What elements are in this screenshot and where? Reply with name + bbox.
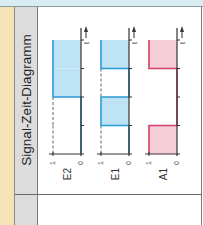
high-segment	[149, 126, 177, 155]
signal-name-label: E1	[110, 167, 121, 180]
signal-name-label: E2	[62, 167, 73, 180]
level-label-high: 1	[49, 161, 56, 165]
time-axis-label: t	[83, 42, 90, 44]
level-label-low: 0	[77, 161, 84, 165]
level-label-low: 0	[173, 161, 180, 165]
signal-name-label: A1	[158, 167, 169, 180]
signal-e1: 10tE1	[97, 26, 138, 180]
signal-time-diagram: 10tE210tE110tA1	[0, 0, 203, 225]
high-segment	[149, 40, 177, 69]
level-label-high: 1	[145, 161, 152, 165]
signal-e2: 10tE2	[49, 26, 90, 180]
high-segment	[53, 40, 81, 69]
signal-a1: 10tA1	[145, 26, 186, 180]
arrow-up-icon	[180, 26, 184, 32]
arrow-up-icon	[84, 26, 88, 32]
arrow-up-icon	[132, 26, 136, 32]
high-segment	[53, 69, 81, 98]
time-axis-label: t	[179, 42, 186, 44]
time-axis-label: t	[131, 42, 138, 44]
level-label-low: 0	[125, 161, 132, 165]
level-label-high: 1	[97, 161, 104, 165]
high-segment	[101, 97, 129, 126]
high-segment	[101, 40, 129, 69]
